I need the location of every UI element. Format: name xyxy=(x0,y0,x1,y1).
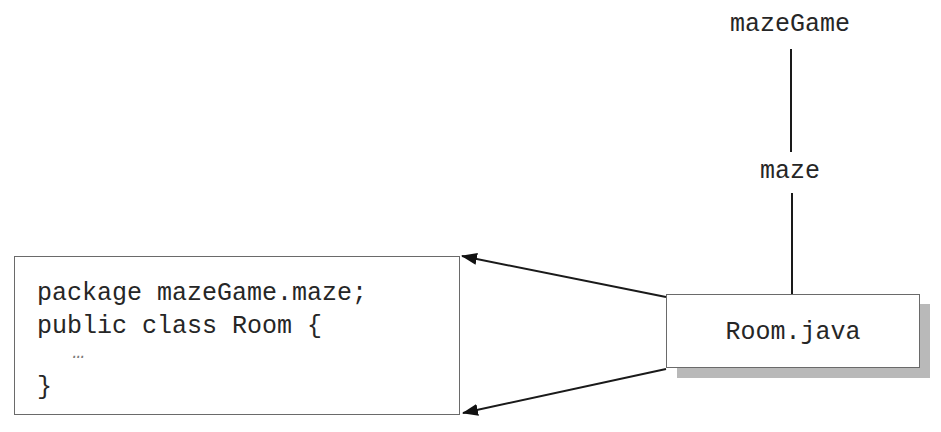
code-line-ellipsis: … xyxy=(37,343,85,363)
file-name-label: Room.java xyxy=(725,318,860,345)
code-line-class-declaration: public class Room { xyxy=(37,314,322,339)
arrow-file-to-code-top xyxy=(462,256,666,297)
arrow-file-to-code-bottom xyxy=(463,369,666,413)
source-code-box: package mazeGame.maze; public class Room… xyxy=(14,256,460,415)
package-label-mazeGame: mazeGame xyxy=(730,12,850,37)
file-box-room-java: Room.java xyxy=(666,294,920,368)
package-label-maze: maze xyxy=(760,159,820,184)
code-line-package: package mazeGame.maze; xyxy=(37,281,367,306)
code-line-closing-brace: } xyxy=(37,375,52,400)
